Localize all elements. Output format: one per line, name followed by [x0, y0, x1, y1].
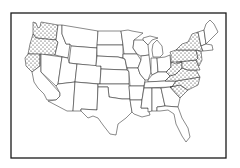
state-arkansas: [129, 86, 144, 100]
west-states: [25, 22, 101, 111]
state-new-mexico: [73, 82, 98, 111]
state-florida: [157, 106, 190, 142]
us-map: [0, 0, 240, 168]
state-colorado: [75, 64, 101, 84]
state-kansas: [100, 69, 129, 84]
state-washington: [33, 22, 58, 40]
state-wyoming: [69, 46, 97, 66]
state-massachusetts-ct-ri: [201, 44, 213, 51]
state-maine: [204, 20, 218, 44]
state-pennsylvania: [170, 50, 198, 62]
us-map-svg: [0, 0, 240, 168]
state-north-dakota: [97, 31, 123, 45]
eastern-states: [141, 20, 218, 142]
